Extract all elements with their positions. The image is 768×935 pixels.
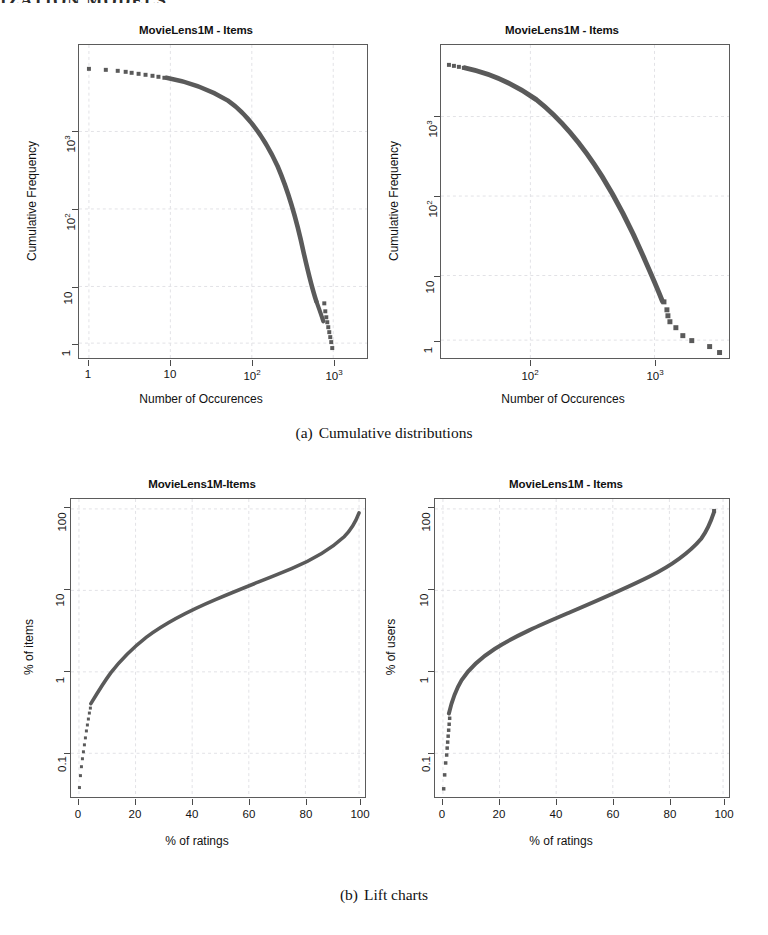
xtick-label: 100 bbox=[350, 808, 369, 820]
xtick-label: 40 bbox=[186, 808, 199, 820]
plot-area bbox=[70, 498, 366, 798]
xtick-mark bbox=[556, 799, 557, 805]
plot-canvas bbox=[441, 45, 729, 358]
exponent: 3 bbox=[338, 368, 342, 377]
xtick-label: 102 bbox=[521, 368, 538, 382]
plot-area bbox=[434, 498, 730, 798]
xtick-label: 60 bbox=[607, 808, 620, 820]
xtick-mark bbox=[249, 799, 250, 805]
xtick-mark bbox=[442, 799, 443, 805]
y-axis-title: % of users bbox=[384, 582, 398, 712]
data-curve bbox=[447, 63, 722, 355]
chart-title: MovieLens1M - Items bbox=[378, 478, 754, 490]
ytick-label: 10 bbox=[62, 287, 74, 309]
caption-b: (b)Lift charts bbox=[0, 886, 768, 904]
caption-a-tag: (a) bbox=[296, 424, 313, 441]
xtick-mark bbox=[135, 799, 136, 805]
xtick-mark bbox=[724, 799, 725, 805]
xtick-mark bbox=[192, 799, 193, 805]
plot-area bbox=[440, 44, 730, 359]
xtick-label: 100 bbox=[714, 808, 733, 820]
xtick-label: 40 bbox=[550, 808, 563, 820]
ytick-label: 10 bbox=[418, 589, 430, 611]
xtick-label: 1 bbox=[85, 368, 91, 380]
data-curve bbox=[78, 513, 359, 789]
chart-title: MovieLens1M-Items bbox=[14, 478, 390, 490]
ytick-label: 1 bbox=[422, 342, 434, 358]
xtick-label: 0 bbox=[75, 808, 81, 820]
curve-svg bbox=[71, 499, 365, 797]
ytick-label: 103 bbox=[425, 116, 439, 142]
chart-lift-items: MovieLens1M-Items bbox=[8, 478, 384, 878]
y-axis-title: % of items bbox=[22, 582, 36, 712]
plot-area bbox=[78, 44, 368, 359]
y-axis-title: Cumulative Frequency bbox=[387, 121, 401, 281]
caption-b-text: Lift charts bbox=[364, 886, 428, 903]
xtick-mark bbox=[78, 799, 79, 805]
data-curve bbox=[442, 509, 716, 791]
ytick-mark bbox=[72, 344, 78, 345]
x-axis-title: Number of Occurences bbox=[398, 392, 728, 406]
xtick-label: 103 bbox=[325, 368, 342, 382]
plot-canvas bbox=[71, 499, 365, 797]
ytick-label: 0.1 bbox=[420, 750, 432, 778]
xtick-mark bbox=[88, 360, 89, 366]
x-axis-title: % of ratings bbox=[32, 834, 362, 848]
xtick-label: 103 bbox=[646, 368, 663, 382]
xtick-mark bbox=[252, 360, 253, 366]
xtick-label: 80 bbox=[300, 808, 313, 820]
ytick-label: 102 bbox=[63, 209, 77, 235]
exponent: 2 bbox=[425, 200, 434, 204]
xtick-label: 60 bbox=[243, 808, 256, 820]
xtick-mark bbox=[306, 799, 307, 805]
ytick-label: 1 bbox=[54, 672, 66, 688]
plot-canvas bbox=[79, 45, 367, 358]
xtick-label: 20 bbox=[493, 808, 506, 820]
ytick-label: 0.1 bbox=[56, 750, 68, 778]
plot-canvas bbox=[435, 499, 729, 797]
xtick-mark bbox=[360, 799, 361, 805]
exponent: 2 bbox=[534, 368, 538, 377]
xtick-label: 80 bbox=[664, 808, 677, 820]
ytick-label: 10 bbox=[54, 589, 66, 611]
xtick-mark bbox=[334, 360, 335, 366]
xtick-label: 10 bbox=[164, 368, 177, 380]
caption-a-text: Cumulative distributions bbox=[319, 424, 473, 441]
caption-b-tag: (b) bbox=[340, 886, 358, 903]
chart-cum-items-tail: MovieLens1M - Items bbox=[392, 24, 768, 424]
xtick-mark bbox=[499, 799, 500, 805]
xtick-label: 0 bbox=[439, 808, 445, 820]
curve-svg bbox=[441, 45, 729, 358]
chart-title: MovieLens1M - Items bbox=[374, 24, 750, 36]
xtick-mark bbox=[530, 360, 531, 366]
exponent: 3 bbox=[659, 368, 663, 377]
figure-page: IZATION MODELS MovieLens1M - Items bbox=[0, 0, 768, 935]
ytick-label: 1 bbox=[60, 345, 72, 361]
y-axis-title: Cumulative Frequency bbox=[25, 121, 39, 281]
exponent: 3 bbox=[425, 120, 434, 124]
x-axis-title: Number of Occurences bbox=[36, 392, 366, 406]
xtick-mark bbox=[170, 360, 171, 366]
chart-cum-items-full: MovieLens1M - Items bbox=[8, 24, 384, 424]
xtick-mark bbox=[613, 799, 614, 805]
x-axis-title: % of ratings bbox=[396, 834, 726, 848]
xtick-mark bbox=[670, 799, 671, 805]
gridlines bbox=[71, 499, 365, 797]
curve-svg bbox=[79, 45, 367, 358]
caption-a: (a)Cumulative distributions bbox=[0, 424, 768, 442]
ytick-label: 102 bbox=[425, 196, 439, 222]
curve-svg bbox=[435, 499, 729, 797]
ytick-mark bbox=[434, 341, 440, 342]
xtick-mark bbox=[655, 360, 656, 366]
xtick-label: 20 bbox=[129, 808, 142, 820]
ytick-label: 1 bbox=[418, 672, 430, 688]
chart-title: MovieLens1M - Items bbox=[8, 24, 384, 36]
exponent: 2 bbox=[63, 213, 72, 217]
ytick-label: 103 bbox=[63, 131, 77, 157]
exponent: 3 bbox=[63, 135, 72, 139]
exponent: 2 bbox=[256, 368, 260, 377]
ytick-label: 100 bbox=[420, 506, 432, 538]
gridlines bbox=[435, 499, 729, 797]
running-header: IZATION MODELS bbox=[0, 0, 768, 3]
ytick-label: 100 bbox=[56, 506, 68, 538]
